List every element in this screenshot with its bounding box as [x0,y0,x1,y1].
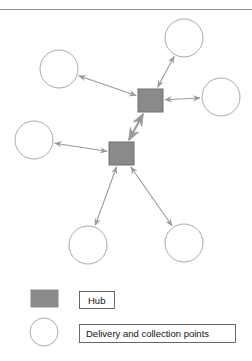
point-right-node [202,78,240,116]
connection-arrow-hub-2-point-bottom-right [131,167,172,226]
connection-arrow-hub-2-point-lower-left [55,143,107,151]
legend-point-swatch [30,318,58,346]
legend-hub-swatch [31,290,58,307]
connection-arrow-hub-1-point-top [158,57,174,87]
connection-arrow-hub-1-point-right [165,98,200,100]
connection-arrow-hub-2-point-bottom-left [95,167,116,225]
point-bottom-right-node [165,224,203,262]
point-lower-left-node [15,121,53,159]
hub-and-spoke-diagram: Hub Delivery and collection points [0,0,252,361]
legend-point-label: Delivery and collection points [86,328,209,339]
legend: Hub Delivery and collection points [30,290,236,346]
connection-arrow-hub-1-point-upper-left [79,76,136,96]
hub-2-node [109,142,134,165]
hub-1-node [138,89,163,112]
point-bottom-left-node [69,226,107,264]
legend-hub-label: Hub [88,295,105,306]
edges [55,57,200,226]
connection-arrow-hub-1-hub-2 [129,114,143,140]
nodes [15,19,240,264]
point-upper-left-node [40,50,78,88]
point-top-node [165,19,203,57]
